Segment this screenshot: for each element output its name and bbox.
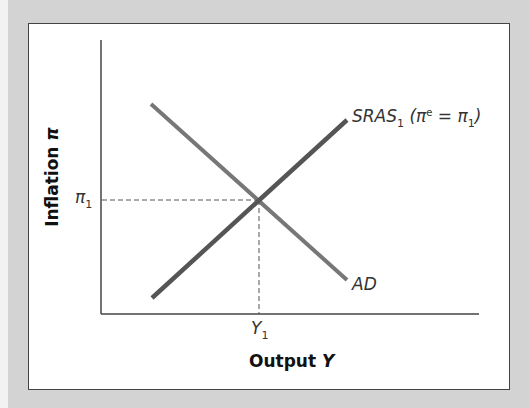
y-tick-pi1: π1 (75, 187, 92, 207)
x-tick-y1: Y1 (251, 318, 268, 338)
ad-curve (151, 104, 347, 280)
sras-label: SRAS1 (πe = π1) (352, 106, 481, 126)
x-axis-title: Output Y (249, 351, 334, 371)
sras-curve (152, 120, 347, 298)
ad-label: AD (352, 274, 377, 294)
y-axis-title: Inflation π (42, 127, 62, 227)
